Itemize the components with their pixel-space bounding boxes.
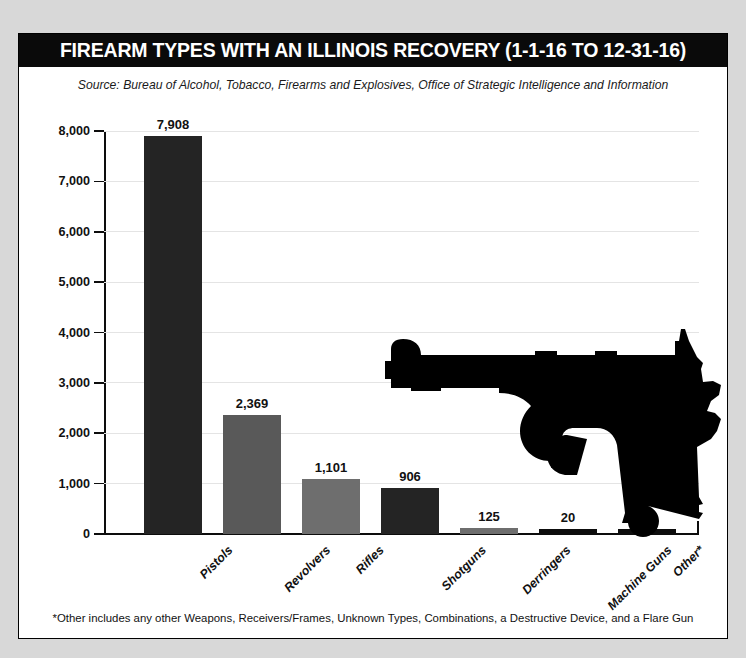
y-axis-label: 6,000 xyxy=(58,225,90,239)
y-axis-label: 4,000 xyxy=(58,326,90,340)
footnote: *Other includes any other Weapons, Recei… xyxy=(19,612,727,624)
y-axis-label: 1,000 xyxy=(58,477,90,491)
bar-value-label: 906 xyxy=(399,469,421,484)
y-axis-tick xyxy=(94,432,104,434)
y-axis-label: 3,000 xyxy=(58,376,90,390)
y-axis-label: 8,000 xyxy=(58,124,90,138)
page-title: FIREARM TYPES WITH AN ILLINOIS RECOVERY … xyxy=(60,39,686,62)
bar[interactable]: 38 xyxy=(618,529,676,534)
y-axis-label: 5,000 xyxy=(58,275,90,289)
chart-card: FIREARM TYPES WITH AN ILLINOIS RECOVERY … xyxy=(18,33,728,639)
x-axis-category-label: Rifles xyxy=(353,543,387,577)
x-axis-category-label: Derringers xyxy=(519,543,573,597)
y-axis-tick xyxy=(94,382,104,384)
bar-value-label: 38 xyxy=(640,510,654,525)
bar[interactable]: 7,908 xyxy=(144,136,202,534)
y-axis-label: 0 xyxy=(83,527,90,541)
x-axis-category-label: Other* xyxy=(670,543,707,580)
y-axis-label: 2,000 xyxy=(58,426,90,440)
source-note: Source: Bureau of Alcohol, Tobacco, Fire… xyxy=(19,78,727,92)
x-axis-category-label: Revolvers xyxy=(281,543,333,595)
chart-page: FIREARM TYPES WITH AN ILLINOIS RECOVERY … xyxy=(0,0,746,658)
y-axis-tick xyxy=(94,281,104,283)
bar-value-label: 1,101 xyxy=(315,460,348,475)
title-bar: FIREARM TYPES WITH AN ILLINOIS RECOVERY … xyxy=(19,34,727,67)
bar-value-label: 125 xyxy=(478,509,500,524)
y-axis-label: 7,000 xyxy=(58,174,90,188)
bar-value-label: 2,369 xyxy=(236,396,269,411)
y-axis-tick xyxy=(94,181,104,183)
bar-value-label: 20 xyxy=(561,510,575,525)
x-axis-category-label: Pistols xyxy=(197,543,236,582)
bar-value-label: 7,908 xyxy=(157,117,190,132)
gridline xyxy=(104,131,699,132)
y-axis-tick xyxy=(94,130,104,132)
y-axis-tick xyxy=(94,332,104,334)
y-axis-tick xyxy=(94,483,104,485)
plot-area: 01,0002,0003,0004,0005,0006,0007,0008,00… xyxy=(104,131,699,534)
bar[interactable]: 20 xyxy=(539,529,597,534)
bar[interactable]: 125 xyxy=(460,528,518,534)
y-axis-tick xyxy=(94,231,104,233)
bar[interactable]: 2,369 xyxy=(223,415,281,534)
x-axis-endcap xyxy=(697,521,699,534)
x-axis-category-label: Machine Guns xyxy=(605,543,675,613)
y-axis-tick xyxy=(94,533,104,535)
bar[interactable]: 1,101 xyxy=(302,479,360,534)
bar[interactable]: 906 xyxy=(381,488,439,534)
x-axis-category-label: Shotguns xyxy=(439,543,489,593)
